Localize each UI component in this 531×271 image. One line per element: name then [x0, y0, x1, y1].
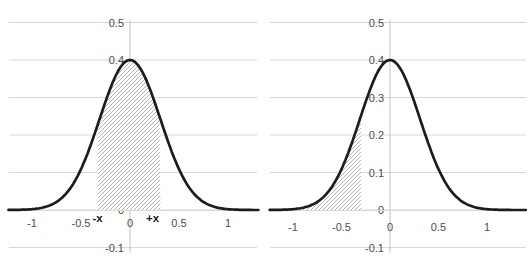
x-axis-tick-label: 0	[387, 221, 393, 233]
y-axis-tick-label: 0.5	[109, 17, 124, 29]
x-axis-tick-label: 0.5	[431, 221, 446, 233]
y-axis-tick-label: 0.5	[369, 17, 384, 29]
y-axis-tick-label: -0.1	[365, 242, 384, 254]
x-axis-tick-label: -1	[288, 221, 298, 233]
x-axis-tick-label: 0.5	[171, 217, 186, 229]
region-edge-label: -x	[93, 212, 104, 224]
x-axis-tick-label: -1	[27, 217, 37, 229]
region-edge-label: +x	[146, 212, 160, 224]
figure-two-normal-curves: 0.50.40.30.20.10-0.1-1-0.500.51-x+x 0.50…	[0, 0, 531, 271]
y-axis-tick-label: 0.1	[369, 167, 384, 179]
y-axis-tick-label: 0.3	[369, 92, 384, 104]
y-axis-tick-label: -0.1	[105, 242, 124, 254]
shaded-probability-region	[98, 60, 161, 210]
x-axis-tick-label: 1	[484, 221, 490, 233]
x-axis-tick-label: 1	[225, 217, 231, 229]
x-axis-tick-label: -0.5	[332, 221, 351, 233]
x-axis-tick-label: -0.5	[72, 217, 91, 229]
normal-curve-chart-left: 0.50.40.30.20.10-0.1-1-0.500.51-x+x	[0, 0, 265, 271]
normal-curve-chart-right: 0.50.40.30.20.10-0.1-1-0.500.51	[265, 0, 531, 271]
x-axis-tick-label: 0	[127, 217, 133, 229]
y-axis-tick-label: 0.2	[369, 129, 384, 141]
